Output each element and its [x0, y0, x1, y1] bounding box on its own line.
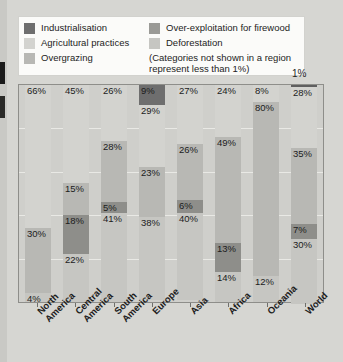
segment-value-label: 30%	[293, 239, 312, 250]
chart-page: Industrialisation Agricultural practices…	[0, 0, 343, 362]
segment-value-label: 26%	[103, 85, 122, 96]
bar-segment: 35%	[291, 148, 317, 224]
x-label-cell: SouthAmerica	[95, 306, 133, 362]
bar-segment: 23%	[139, 167, 165, 217]
segment-value-label: 45%	[65, 85, 84, 96]
legend-item-agricultural-practices: Agricultural practices	[24, 36, 149, 51]
legend-swatch-deforestation	[149, 38, 160, 49]
bar-group-oceania: 8%80%12%	[247, 85, 285, 302]
segment-value-label: 14%	[217, 272, 236, 283]
legend-note-row: (Categories not shown in a region repres…	[149, 51, 299, 74]
bar-segment: 28%	[101, 141, 127, 202]
bar-segment: 45%	[63, 85, 89, 183]
stacked-bar: 66%30%4%	[25, 85, 51, 302]
segment-value-label: 12%	[255, 276, 274, 287]
stacked-bar: 26%28%5%41%	[101, 85, 127, 302]
bar-group-south-america: 26%28%5%41%	[95, 85, 133, 302]
segment-value-label: 49%	[217, 137, 236, 148]
segment-value-label: 23%	[141, 167, 160, 178]
segment-value-label: 38%	[141, 217, 160, 228]
legend-label-over-exploitation-for-firewood: Over-exploitation for firewood	[166, 21, 290, 35]
bar-segment: 5%	[101, 202, 127, 213]
bar-segment: 49%	[215, 137, 241, 243]
bar-segment: 27%	[177, 85, 203, 144]
segment-value-label: 29%	[141, 105, 160, 116]
bar-segment: 26%	[177, 144, 203, 200]
bar-segment: 29%	[139, 105, 165, 168]
segment-value-label: 28%	[103, 141, 122, 152]
bar-segment: 9%	[139, 85, 165, 105]
bar-segment: 7%	[291, 224, 317, 239]
legend-column-right: Over-exploitation for firewood Deforesta…	[149, 21, 299, 74]
bar-segment: 15%	[63, 183, 89, 216]
segment-value-label: 40%	[179, 213, 198, 224]
bar-segment: 18%	[63, 215, 89, 254]
bar-segment: 80%	[253, 102, 279, 276]
legend-label-agricultural-practices: Agricultural practices	[41, 36, 129, 50]
bar-segment: 24%	[215, 85, 241, 137]
legend-item-over-exploitation-for-firewood: Over-exploitation for firewood	[149, 21, 299, 36]
segment-value-label: 35%	[293, 148, 312, 159]
legend-label-overgrazing: Overgrazing	[41, 51, 93, 65]
legend-swatch-over-exploitation-for-firewood	[149, 23, 160, 34]
stacked-bar: 8%80%12%	[253, 85, 279, 302]
bar-group-central-america: 45%15%18%22%	[57, 85, 95, 302]
segment-value-label: 28%	[293, 87, 312, 98]
x-label-cell: Europe	[133, 306, 171, 362]
x-label-cell: Oceania	[248, 306, 286, 362]
stacked-bar: 28%35%7%30%	[291, 85, 317, 302]
x-label-cell: Asia	[171, 306, 209, 362]
segment-value-label: 18%	[65, 215, 84, 226]
legend-swatch-overgrazing	[24, 53, 35, 64]
bar-group-north-america: 66%30%4%	[19, 85, 57, 302]
segment-value-label: 66%	[27, 85, 46, 96]
legend-item-industrialisation: Industrialisation	[24, 21, 149, 36]
segment-value-label: 80%	[255, 102, 274, 113]
x-label-cell: NorthAmerica	[18, 306, 56, 362]
x-axis-labels: NorthAmericaCentralAmericaSouthAmericaEu…	[18, 306, 324, 362]
segment-value-label: 9%	[141, 85, 155, 96]
scan-artifact-top	[0, 62, 5, 84]
bar-segment: 8%	[253, 85, 279, 102]
segment-value-label: 13%	[217, 243, 236, 254]
bar-segment: 40%	[177, 213, 203, 300]
segment-value-label: 41%	[103, 213, 122, 224]
bar-segment: 13%	[215, 243, 241, 271]
legend-item-deforestation: Deforestation	[149, 36, 299, 51]
stacked-bar: 27%26%6%40%	[177, 85, 203, 302]
legend-item-overgrazing: Overgrazing	[24, 51, 149, 66]
legend-note: (Categories not shown in a region repres…	[149, 52, 299, 74]
segment-value-label: 15%	[65, 183, 84, 194]
x-label-cell: CentralAmerica	[56, 306, 94, 362]
scan-artifact-bottom	[0, 96, 5, 118]
bar-segment: 26%	[101, 85, 127, 141]
bar-segment: 30%	[25, 228, 51, 293]
segment-value-label: 7%	[293, 224, 307, 235]
legend-swatch-agricultural-practices	[24, 38, 35, 49]
legend-label-deforestation: Deforestation	[166, 36, 223, 50]
x-label-cell: World	[286, 306, 324, 362]
legend-column-left: Industrialisation Agricultural practices…	[24, 21, 149, 74]
x-label-cell: Africa	[209, 306, 247, 362]
segment-value-label: 26%	[179, 144, 198, 155]
stacked-bars: 66%30%4%45%15%18%22%26%28%5%41%9%29%23%3…	[19, 85, 323, 302]
chart-legend: Industrialisation Agricultural practices…	[18, 16, 305, 76]
segment-value-label: 22%	[65, 254, 84, 265]
bar-group-world: 28%35%7%30%	[285, 85, 323, 302]
legend-label-industrialisation: Industrialisation	[41, 21, 107, 35]
segment-value-label: 6%	[179, 200, 193, 211]
bar-segment: 66%	[25, 85, 51, 228]
bar-group-africa: 24%49%13%14%	[209, 85, 247, 302]
segment-value-label: 30%	[27, 228, 46, 239]
legend-swatch-industrialisation	[24, 23, 35, 34]
stacked-bar: 45%15%18%22%	[63, 85, 89, 302]
plot-area: 66%30%4%45%15%18%22%26%28%5%41%9%29%23%3…	[18, 84, 324, 303]
bar-group-asia: 27%26%6%40%	[171, 85, 209, 302]
stacked-bar: 9%29%23%38%	[139, 85, 165, 302]
world-industrialisation-callout: 1%	[292, 68, 306, 79]
bar-segment: 28%	[291, 87, 317, 148]
segment-value-label: 27%	[179, 85, 198, 96]
scan-gutter	[0, 0, 7, 362]
stacked-bar: 24%49%13%14%	[215, 85, 241, 302]
bar-segment: 6%	[177, 200, 203, 213]
